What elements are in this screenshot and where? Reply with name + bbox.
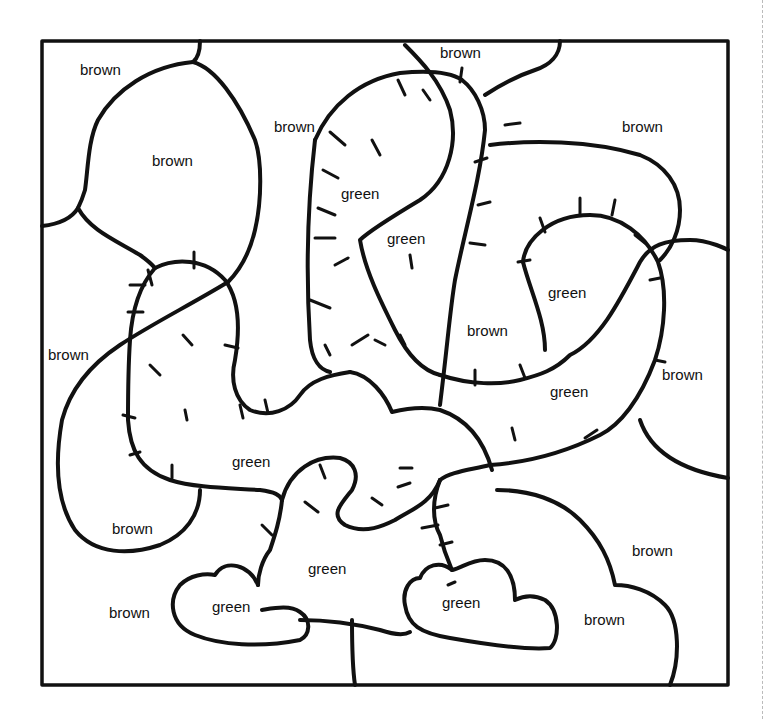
region-label: green — [387, 231, 425, 246]
region-label: green — [308, 561, 346, 576]
region-label: brown — [109, 605, 150, 620]
region-label: brown — [440, 45, 481, 60]
region-label: green — [232, 454, 270, 469]
region-label: brown — [274, 119, 315, 134]
region-label: green — [442, 595, 480, 610]
region-label: brown — [467, 323, 508, 338]
region-label: green — [341, 186, 379, 201]
region-label: brown — [80, 62, 121, 77]
cut-line — [762, 0, 763, 719]
region-label: brown — [584, 612, 625, 627]
region-label: brown — [662, 367, 703, 382]
region-label: brown — [622, 119, 663, 134]
region-label: brown — [48, 347, 89, 362]
region-label: green — [550, 384, 588, 399]
region-label: brown — [112, 521, 153, 536]
region-label: brown — [632, 543, 673, 558]
region-label: green — [212, 599, 250, 614]
region-label: green — [548, 285, 586, 300]
region-label: brown — [152, 153, 193, 168]
coloring-page: brown brown brown brown brown green gree… — [0, 0, 770, 719]
